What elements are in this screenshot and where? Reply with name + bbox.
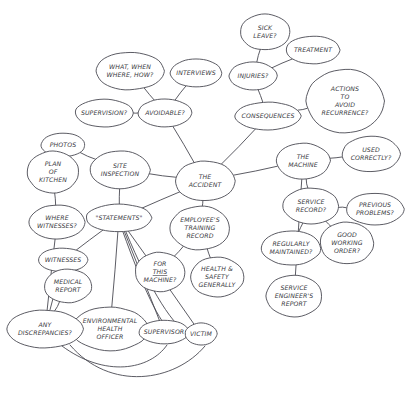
edge-the_accident-to-statements <box>142 192 180 208</box>
node-label-witnesses: WITNESSES <box>45 256 82 263</box>
edge-employee_training-to-for_this_machine <box>175 246 184 256</box>
node-witnesses[interactable]: WITNESSES <box>39 248 88 272</box>
node-service_record[interactable]: SERVICERECORD? <box>283 188 339 224</box>
edge-consequences-to-actions <box>298 108 307 110</box>
node-regularly_maint[interactable]: REGULARLYMAINTAINED? <box>261 231 320 265</box>
edge-the_machine-to-used_correctly <box>330 157 343 158</box>
node-label-interviews: INTERVIEWS <box>176 69 215 76</box>
edge-photos-to-site_inspection <box>80 153 95 160</box>
node-statements[interactable]: "STATEMENTS" <box>86 204 151 232</box>
node-label-medical_report: MEDICALREPORT <box>54 278 83 293</box>
node-supervision[interactable]: SUPERVISION? <box>75 99 133 127</box>
node-layer: SICKLEAVE?TREATMENTWHAT, WHENWHERE, HOW?… <box>7 14 404 351</box>
node-injuries[interactable]: INJURIES? <box>229 62 277 90</box>
node-interviews[interactable]: INTERVIEWS <box>170 59 222 87</box>
edge-statements-to-env_health <box>112 232 118 307</box>
node-treatment[interactable]: TREATMENT <box>286 36 340 64</box>
node-victim[interactable]: VICTIM <box>185 323 217 345</box>
edge-employee_training-to-health_safety <box>207 249 210 257</box>
edge-service_record-to-regularly_maint <box>299 223 303 231</box>
edge-site_inspection-to-the_accident <box>149 174 175 177</box>
edge-the_accident-to-employee_training <box>202 201 203 206</box>
node-previous_problems[interactable]: PREVIOUSPROBLEMS? <box>347 193 405 225</box>
node-label-photos: PHOTOS <box>50 141 76 148</box>
edge-what_when-to-avoidable <box>144 88 154 100</box>
node-label-statements: "STATEMENTS" <box>95 214 142 221</box>
node-label-what_when: WHAT, WHENWHERE, HOW? <box>107 63 154 78</box>
node-any_discrepancies[interactable]: ANYDISCREPANCIES? <box>7 310 84 348</box>
node-actions[interactable]: ACTIONSTOAVOIDRECURRENCE? <box>306 69 385 133</box>
node-service_engineer[interactable]: SERVICEENGINEER'SREPORT <box>266 275 322 317</box>
node-plan_kitchen[interactable]: PLANOFKITCHEN <box>27 151 78 193</box>
curved-edge-disc-to-victim <box>70 345 205 377</box>
node-label-avoidable: AVOIDABLE? <box>144 109 185 116</box>
edge-service_record-to-good_working <box>326 221 331 226</box>
edge-service_record-to-previous_problems <box>339 207 346 208</box>
node-used_correctly[interactable]: USEDCORRECTLY? <box>342 136 400 171</box>
node-label-injuries: INJURIES? <box>238 72 270 80</box>
node-the_accident[interactable]: THEACCIDENT <box>176 161 236 201</box>
node-where_witnesses[interactable]: WHEREWITNESSES? <box>29 205 85 239</box>
accident-investigation-diagram: SICKLEAVE?TREATMENTWHAT, WHENWHERE, HOW?… <box>0 0 417 393</box>
node-what_when[interactable]: WHAT, WHENWHERE, HOW? <box>96 52 164 89</box>
node-the_machine[interactable]: THEMACHINE <box>276 143 330 179</box>
edge-interviews-to-avoidable <box>175 86 186 100</box>
edge-the_accident-to-the_machine <box>234 166 277 175</box>
edge-injuries-to-consequences <box>258 90 263 102</box>
edge-sick_leave-to-injuries <box>257 50 260 63</box>
node-label-treatment: TREATMENT <box>294 46 333 53</box>
node-health_safety[interactable]: HEALTH &SAFETYGENERALLY <box>191 257 244 297</box>
node-sick_leave[interactable]: SICKLEAVE? <box>241 14 290 50</box>
node-avoidable[interactable]: AVOIDABLE? <box>138 99 192 127</box>
node-employee_training[interactable]: EMPLOYEE'STRAININGRECORD <box>170 206 229 250</box>
node-site_inspection[interactable]: SITEINSPECTION <box>90 151 150 189</box>
node-for_this_machine[interactable]: FORTHISMACHINE? <box>136 252 185 292</box>
edge-the_machine-to-service_record <box>306 179 308 188</box>
node-label-victim: VICTIM <box>190 330 212 337</box>
edge-medical_report-to-any_discrepancies <box>55 302 60 311</box>
node-good_working[interactable]: GOODWORKINGORDER? <box>320 222 373 264</box>
node-consequences[interactable]: CONSEQUENCES <box>235 102 301 130</box>
node-label-service_record: SERVICERECORD? <box>296 198 327 213</box>
node-medical_report[interactable]: MEDICALREPORT <box>45 269 92 303</box>
edge-statements-to-witnesses <box>76 230 102 250</box>
edge-treatment-to-injuries <box>272 59 292 68</box>
edge-plan_kitchen-to-where_witnesses <box>55 193 56 205</box>
node-label-supervision: SUPERVISION? <box>81 109 128 116</box>
edge-avoidable-to-the_accident <box>173 126 194 162</box>
node-label-supervisor: SUPERVISOR <box>144 328 185 335</box>
node-label-previous_problems: PREVIOUSPROBLEMS? <box>356 201 395 216</box>
node-supervisor[interactable]: SUPERVISOR <box>139 320 189 344</box>
node-label-regularly_maint: REGULARLYMAINTAINED? <box>270 240 314 255</box>
edge-consequences-to-the_accident <box>221 129 255 164</box>
mind-map-canvas: SICKLEAVE?TREATMENTWHAT, WHENWHERE, HOW?… <box>0 0 417 393</box>
node-label-consequences: CONSEQUENCES <box>242 112 295 119</box>
